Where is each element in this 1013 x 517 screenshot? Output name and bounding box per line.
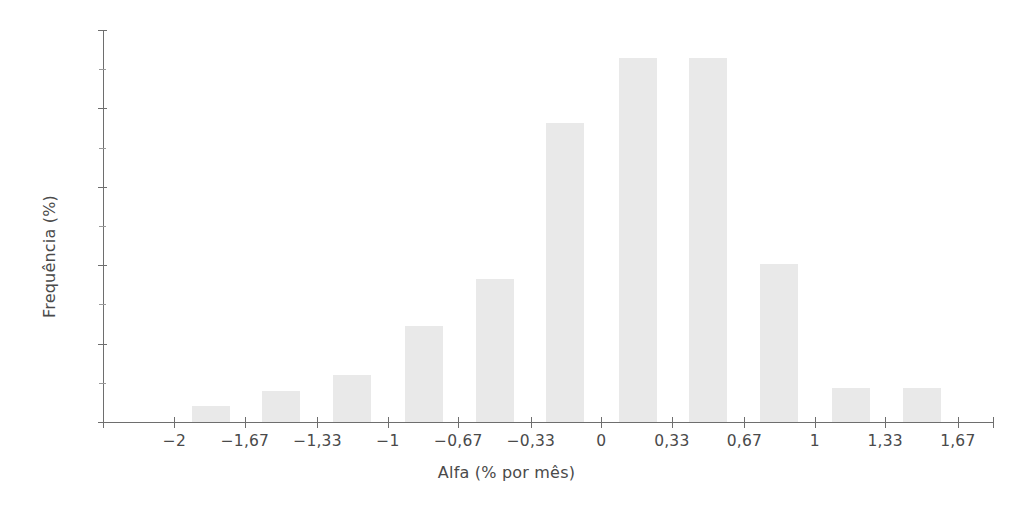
- x-tick-label: −1,67: [221, 432, 270, 450]
- bar: [760, 264, 798, 422]
- y-axis-title: Frequência (%): [40, 195, 59, 318]
- bars-layer: [0, 0, 1013, 423]
- bar: [192, 406, 230, 422]
- x-tick-label: −1,33: [293, 432, 342, 450]
- x-tick-label: −2: [163, 432, 186, 450]
- histogram-chart: 0510152025 −2−1,67−1,33−1−0,67−0,3300,33…: [0, 0, 1013, 517]
- bar: [619, 58, 657, 422]
- bar: [333, 375, 371, 422]
- x-tick-label: 0: [596, 432, 606, 450]
- x-tick-label: −0,33: [507, 432, 556, 450]
- bar: [476, 279, 514, 422]
- bar: [262, 391, 300, 422]
- bar: [405, 326, 443, 422]
- x-axis-title: Alfa (% por mês): [0, 463, 1013, 482]
- bar-series: [0, 0, 1013, 422]
- x-tick-label: −1: [376, 432, 399, 450]
- bar: [689, 58, 727, 422]
- x-tick-label: 1,67: [940, 432, 975, 450]
- bar: [546, 123, 584, 422]
- bar: [903, 388, 941, 422]
- x-tick-label: 1: [810, 432, 820, 450]
- x-tick-label: 0,67: [727, 432, 762, 450]
- x-tick-label: 0,33: [654, 432, 689, 450]
- bar: [832, 388, 870, 422]
- x-tick-label: −0,67: [434, 432, 483, 450]
- x-tick-label: 1,33: [868, 432, 903, 450]
